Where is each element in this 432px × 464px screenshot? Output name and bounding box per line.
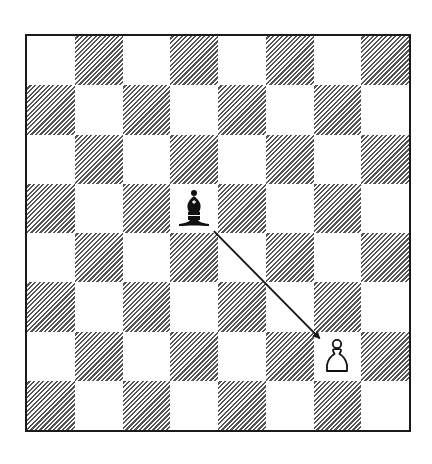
square-g2 [314,332,362,381]
square-h1 [361,381,409,430]
square-d1 [170,381,218,430]
square-f3 [266,282,314,331]
square-a5 [27,184,75,233]
square-e4 [218,233,266,282]
square-g6 [314,135,362,184]
square-b2 [75,332,123,381]
square-a2 [27,332,75,381]
square-a8 [27,36,75,85]
square-b7 [75,85,123,134]
square-h2 [361,332,409,381]
square-e2 [218,332,266,381]
square-b5 [75,184,123,233]
square-g7 [314,85,362,134]
square-c1 [123,381,171,430]
square-d5 [170,184,218,233]
square-g5 [314,184,362,233]
square-e7 [218,85,266,134]
square-h7 [361,85,409,134]
square-e8 [218,36,266,85]
square-g8 [314,36,362,85]
black-bishop-icon [170,184,218,233]
square-e6 [218,135,266,184]
square-d7 [170,85,218,134]
square-h5 [361,184,409,233]
square-g1 [314,381,362,430]
square-c8 [123,36,171,85]
square-b1 [75,381,123,430]
white-pawn-icon [314,332,362,381]
square-c2 [123,332,171,381]
square-a6 [27,135,75,184]
square-c7 [123,85,171,134]
square-e5 [218,184,266,233]
chess-board [25,34,411,432]
square-b6 [75,135,123,184]
square-d4 [170,233,218,282]
square-h4 [361,233,409,282]
square-a1 [27,381,75,430]
square-h6 [361,135,409,184]
square-d6 [170,135,218,184]
square-b4 [75,233,123,282]
square-f1 [266,381,314,430]
square-a3 [27,282,75,331]
square-b3 [75,282,123,331]
square-f5 [266,184,314,233]
diagram-stage [0,0,432,464]
square-h8 [361,36,409,85]
square-f8 [266,36,314,85]
square-a4 [27,233,75,282]
square-d3 [170,282,218,331]
square-c5 [123,184,171,233]
square-d8 [170,36,218,85]
square-b8 [75,36,123,85]
square-d2 [170,332,218,381]
square-g3 [314,282,362,331]
square-e3 [218,282,266,331]
square-c4 [123,233,171,282]
square-a7 [27,85,75,134]
square-f2 [266,332,314,381]
square-f7 [266,85,314,134]
square-f6 [266,135,314,184]
square-c6 [123,135,171,184]
square-c3 [123,282,171,331]
square-f4 [266,233,314,282]
square-g4 [314,233,362,282]
square-e1 [218,381,266,430]
square-h3 [361,282,409,331]
